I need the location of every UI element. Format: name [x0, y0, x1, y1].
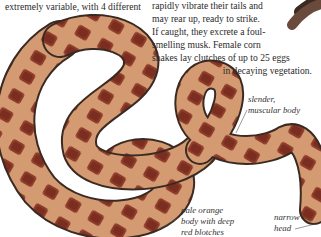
text-line: may rear up, ready to strike. [152, 12, 317, 25]
caption-narrow-head: narrow head [274, 212, 300, 234]
caption-coloring: pale orange body with deep red blotches [181, 205, 234, 237]
text-line: If caught, they excrete a foul- [152, 25, 317, 38]
body-text-left: extremely variable, with 4 different [5, 0, 141, 13]
text-line: smelling musk. Female corn [152, 38, 317, 51]
caption-muscular-body: slender, muscular body [248, 94, 300, 116]
text-line: rapidly vibrate their tails and [152, 0, 317, 12]
text-line: snakes lay clutches of up to 25 eggs [152, 51, 317, 64]
body-text-right: rapidly vibrate their tails and may rear… [152, 0, 317, 77]
text-line: in decaying vegetation. [152, 64, 317, 77]
